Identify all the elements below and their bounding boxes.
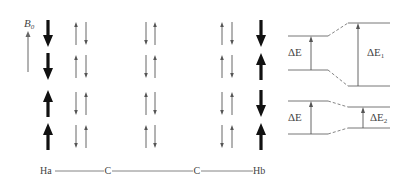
bold-spin-arrow-down-icon (43, 53, 53, 80)
diagram-canvas: B0 Ha C C Hb ΔE ΔE1 (0, 0, 411, 191)
bold-spin-arrow-up-icon (256, 123, 266, 150)
thin-spin-arrow-up-icon (84, 92, 88, 115)
energy-levels-bottom: ΔE ΔE2 (288, 101, 390, 134)
thin-spin-arrow-down-icon (74, 92, 78, 115)
thin-spin-arrow-down-icon (153, 92, 157, 115)
atom-hb: Hb (253, 165, 265, 176)
bold-spin-arrow-up-icon (43, 90, 53, 117)
thin-spin-arrow-up-icon (74, 22, 78, 45)
molecule-chain: Ha C C Hb (40, 165, 265, 176)
thin-spin-arrow-up-icon (153, 22, 157, 45)
atom-c2: C (194, 165, 201, 176)
bold-spin-arrow-down-icon (256, 90, 266, 117)
thin-spin-arrow-down-icon (74, 125, 78, 148)
thin-spin-arrow-down-icon (153, 125, 157, 148)
thin-spin-arrow-up-icon (84, 125, 88, 148)
thin-spin-arrow-down-icon (220, 92, 224, 115)
thin-spin-arrow-down-icon (220, 125, 224, 148)
field-label: B0 (24, 17, 35, 31)
thin-spin-arrow-up-icon (74, 55, 78, 78)
bold-spin-arrow-up-icon (256, 53, 266, 80)
delta-e-top-left: ΔE (288, 46, 302, 58)
thin-spin-arrow-down-icon (230, 22, 234, 45)
thin-spin-arrow-down-icon (84, 55, 88, 78)
spin-arrows (43, 20, 266, 150)
bold-spin-arrow-up-icon (43, 123, 53, 150)
thin-spin-arrow-up-icon (153, 55, 157, 78)
delta-e-bottom-left: ΔE (288, 111, 302, 123)
thin-spin-arrow-up-icon (144, 92, 148, 115)
thin-spin-arrow-up-icon (220, 55, 224, 78)
thin-spin-arrow-down-icon (84, 22, 88, 45)
delta-e2: ΔE2 (370, 111, 388, 125)
field-arrow-icon (26, 31, 31, 72)
thin-spin-arrow-up-icon (230, 92, 234, 115)
bold-spin-arrow-down-icon (43, 20, 53, 47)
thin-spin-arrow-down-icon (144, 22, 148, 45)
thin-spin-arrow-up-icon (220, 22, 224, 45)
energy-levels-top: ΔE ΔE1 (288, 23, 390, 86)
atom-ha: Ha (40, 165, 52, 176)
spin-coupling-diagram: B0 Ha C C Hb ΔE ΔE1 (0, 0, 411, 191)
bold-spin-arrow-down-icon (256, 20, 266, 47)
atom-c1: C (105, 165, 112, 176)
delta-e1: ΔE1 (367, 46, 385, 60)
thin-spin-arrow-down-icon (230, 55, 234, 78)
thin-spin-arrow-up-icon (144, 125, 148, 148)
thin-spin-arrow-down-icon (144, 55, 148, 78)
thin-spin-arrow-up-icon (230, 125, 234, 148)
